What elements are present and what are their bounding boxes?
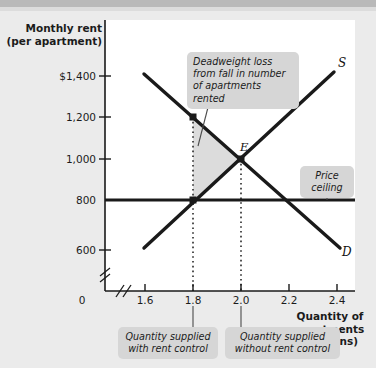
qs-with-callout-line2: with rent control: [124, 343, 212, 355]
price-ceiling-callout-line1: Price: [306, 170, 348, 182]
supply-curve-label: S: [338, 56, 346, 70]
price-ceiling-callout-line2: ceiling: [306, 182, 348, 194]
qs-without-callout-line2: without rent control: [231, 343, 334, 355]
quantity-supplied-without-rent-control-callout: Quantity supplied without rent control: [225, 327, 340, 359]
point-marker-supply-at-ceiling: [190, 197, 197, 204]
qs-with-callout-line1: Quantity supplied: [124, 331, 212, 343]
demand-curve-label: D: [342, 245, 352, 259]
qs-without-callout-line1: Quantity supplied: [231, 331, 334, 343]
deadweight-loss-callout-line1: Deadweight loss: [193, 56, 293, 68]
point-marker-demand-at-1-8: [190, 114, 197, 121]
deadweight-loss-callout: Deadweight loss from fall in number of a…: [187, 52, 299, 109]
deadweight-loss-callout-line2: from fall in number: [193, 68, 293, 80]
point-marker-equilibrium-e: [238, 156, 245, 163]
quantity-supplied-with-rent-control-callout: Quantity supplied with rent control: [118, 327, 218, 359]
figure-container: Monthly rent (per apartment) $1,400 1,20…: [0, 0, 376, 368]
price-ceiling-callout: Price ceiling: [300, 166, 354, 198]
equilibrium-point-label: E: [240, 140, 248, 154]
deadweight-loss-callout-line3: of apartments rented: [193, 80, 293, 104]
deadweight-loss-region: [193, 117, 241, 200]
